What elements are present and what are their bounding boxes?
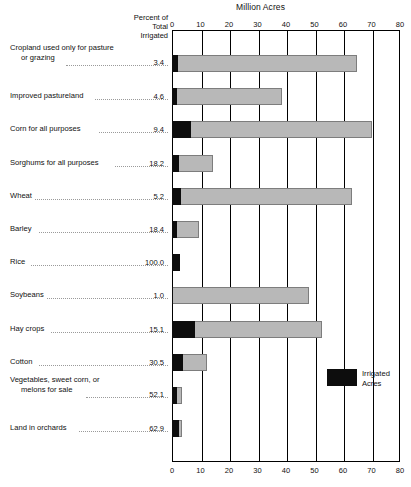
legend-label-line2: Acres [362, 379, 381, 388]
x-axis-tick-label: 70 [367, 20, 375, 29]
row-label-line1: Hay crops [10, 324, 44, 333]
gridline [373, 31, 374, 461]
row-label: Cropland used only for pastureor grazing [10, 43, 114, 62]
percent-total-irrigated-value: 30.5 [130, 358, 164, 367]
row-label: Land in orchards [10, 423, 67, 433]
percent-column-header-line2: Total [100, 22, 168, 31]
percent-total-irrigated-value: 18.4 [130, 225, 164, 234]
row-label: Rice [10, 257, 25, 267]
bar-irrigated-acres [172, 321, 195, 338]
legend-swatch-irrigated [327, 369, 357, 386]
x-axis-tick-label: 60 [339, 20, 347, 29]
row-label: Sorghums for all purposes [10, 158, 99, 168]
bar-irrigated-acres [172, 420, 179, 437]
percent-total-irrigated-value: 15.1 [130, 325, 164, 334]
percent-total-irrigated-value: 100.0 [130, 258, 164, 267]
row-label-line1: Corn for all purposes [10, 124, 81, 133]
bar-total-acres [172, 55, 357, 72]
row-label-line1: Wheat [10, 191, 32, 200]
percent-total-irrigated-value: 9.4 [130, 125, 164, 134]
x-axis-tick-label: 50 [310, 466, 318, 475]
chart-title: Million Acres [236, 2, 285, 12]
bar-irrigated-acres [172, 387, 177, 404]
x-axis-tick-label: 0 [170, 466, 174, 475]
bar-irrigated-acres [172, 354, 183, 371]
row-label: Hay crops [10, 324, 44, 334]
x-axis-tick-label: 40 [282, 466, 290, 475]
bar-irrigated-acres [172, 88, 177, 105]
row-label: Improved pastureland [10, 91, 83, 101]
legend-label-line1: Irrigated [362, 369, 390, 378]
row-label-line1: Barley [10, 224, 32, 233]
bar-total-acres [172, 121, 372, 138]
row-label-line1: Improved pastureland [10, 91, 83, 100]
row-label: Barley [10, 224, 32, 234]
percent-total-irrigated-value: 4.6 [130, 92, 164, 101]
bar-irrigated-acres [172, 188, 181, 205]
row-label: Wheat [10, 191, 32, 201]
x-axis-tick-label: 80 [396, 20, 404, 29]
bar-irrigated-acres [172, 55, 178, 72]
row-label-line1: Vegetables, sweet corn, or [10, 375, 100, 384]
row-label-line2: or grazing [10, 53, 114, 63]
x-axis-tick-label: 10 [196, 466, 204, 475]
x-axis-tick-label: 30 [253, 20, 261, 29]
x-axis-tick-label: 30 [253, 466, 261, 475]
bar-irrigated-acres [172, 287, 173, 304]
percent-total-irrigated-value: 5.2 [130, 192, 164, 201]
x-axis-tick-label: 50 [310, 20, 318, 29]
x-axis-tick-label: 70 [367, 466, 375, 475]
row-label-line1: Soybeans [10, 290, 44, 299]
x-axis-tick-label: 0 [170, 20, 174, 29]
row-label-line2: melons for sale [10, 385, 100, 395]
percent-column-header-line3: Irrigated [100, 31, 168, 40]
irrigated-acres-chart: Million Acres Percent of Total Irrigated… [0, 0, 411, 487]
bar-total-acres [172, 88, 282, 105]
x-axis-tick-label: 20 [225, 466, 233, 475]
x-axis-tick-label: 10 [196, 20, 204, 29]
bar-irrigated-acres [172, 121, 191, 138]
percent-total-irrigated-value: 3.4 [130, 58, 164, 67]
legend-label: Irrigated Acres [362, 369, 390, 388]
bar-total-acres [172, 287, 309, 304]
row-label-line1: Land in orchards [10, 423, 67, 432]
bar-irrigated-acres [172, 254, 180, 271]
percent-total-irrigated-value: 62.9 [130, 424, 164, 433]
percent-total-irrigated-value: 18.2 [130, 159, 164, 168]
percent-total-irrigated-value: 52.1 [130, 390, 164, 399]
percent-column-header-line1: Percent of [100, 13, 168, 22]
row-label: Corn for all purposes [10, 124, 81, 134]
gridline [316, 31, 317, 461]
row-label-line1: Cotton [10, 357, 32, 366]
bar-irrigated-acres [172, 155, 179, 172]
gridline [287, 31, 288, 461]
percent-total-irrigated-value: 1.0 [130, 291, 164, 300]
x-axis-tick-label: 60 [339, 466, 347, 475]
row-label: Cotton [10, 357, 32, 367]
row-label-line1: Rice [10, 257, 25, 266]
gridline [344, 31, 345, 461]
row-label-line1: Cropland used only for pasture [10, 43, 114, 52]
x-axis-tick-label: 20 [225, 20, 233, 29]
x-axis-tick-label: 40 [282, 20, 290, 29]
row-label-line1: Sorghums for all purposes [10, 158, 99, 167]
x-axis-tick-label: 80 [396, 466, 404, 475]
row-label: Vegetables, sweet corn, ormelons for sal… [10, 375, 100, 394]
bar-irrigated-acres [172, 221, 177, 238]
bar-total-acres [172, 188, 352, 205]
row-label: Soybeans [10, 290, 44, 300]
